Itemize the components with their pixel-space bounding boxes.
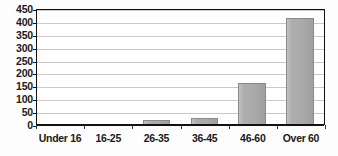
y-tick-label: 350 (0, 30, 33, 40)
bars-layer (37, 10, 324, 124)
x-category-label: Under 16 (36, 131, 84, 151)
x-tickmark (229, 125, 230, 129)
y-tick-label: 400 (0, 17, 33, 27)
y-axis-tick-labels: 050100150200250300350400450 (0, 0, 33, 156)
x-tickmark (132, 125, 133, 129)
y-tick-label: 150 (0, 81, 33, 91)
bar (143, 120, 171, 124)
y-tick-label: 100 (0, 94, 33, 104)
bar-slot (276, 10, 324, 124)
bar-slot (228, 10, 276, 124)
x-axis-tickmarks (36, 125, 325, 130)
y-tick-label: 0 (0, 120, 33, 130)
y-tick-label: 200 (0, 68, 33, 78)
x-tickmark (325, 125, 326, 129)
y-tick-label: 450 (0, 4, 33, 14)
y-tick-label: 300 (0, 43, 33, 53)
x-tickmark (36, 125, 37, 129)
bar-slot (37, 10, 85, 124)
bar-slot (85, 10, 133, 124)
bar-slot (133, 10, 181, 124)
x-tickmark (181, 125, 182, 129)
bar (238, 83, 266, 124)
x-category-label: 46-60 (229, 131, 277, 151)
x-axis-category-labels: Under 1616-2526-3536-4546-60Over 60 (36, 131, 325, 151)
bar-slot (180, 10, 228, 124)
x-tickmark (84, 125, 85, 129)
x-category-label: 16-25 (84, 131, 132, 151)
x-category-label: Over 60 (277, 131, 325, 151)
plot-area (36, 9, 325, 125)
x-category-label: 36-45 (181, 131, 229, 151)
x-category-label: 26-35 (132, 131, 180, 151)
bar (191, 118, 219, 124)
bar (286, 18, 314, 124)
y-tick-label: 50 (0, 107, 33, 117)
y-tick-label: 250 (0, 56, 33, 66)
bar-chart: 050100150200250300350400450 Under 1616-2… (0, 0, 338, 156)
x-tickmark (277, 125, 278, 129)
